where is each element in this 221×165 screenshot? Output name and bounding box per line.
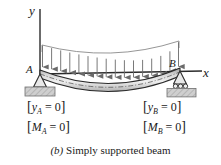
figure-caption: (b) Simply supported beam [0, 144, 221, 156]
simply-supported-beam-figure: y x A B [yA = 0] [MA = 0] [yB = 0] [MB =… [0, 0, 221, 165]
boundary-condition-ya: [yA = 0] [27, 99, 70, 119]
equals-zero: = 0 [47, 120, 66, 134]
equals-zero: = 0 [158, 100, 177, 114]
boundary-condition-yb: [yB = 0] [143, 99, 186, 119]
support-label-a: A [26, 64, 33, 75]
bracket-close: ] [181, 119, 186, 134]
beam-diagram-svg [0, 0, 221, 165]
equals-zero: = 0 [163, 120, 182, 134]
bracket-close: ] [177, 99, 182, 114]
support-label-b: B [169, 58, 176, 69]
caption-text: Simply supported beam [66, 144, 171, 156]
caption-label: (b) [50, 144, 63, 156]
boundary-conditions-right: [yB = 0] [MB = 0] [143, 99, 186, 140]
y-axis-label: y [29, 4, 35, 17]
bracket-close: ] [61, 99, 66, 114]
boundary-condition-mb: [MB = 0] [143, 119, 186, 139]
load-envelope [42, 41, 179, 53]
variable-m: M [32, 120, 42, 134]
bracket-close: ] [65, 119, 70, 134]
x-axis-label: x [203, 66, 209, 79]
variable-m: M [148, 120, 158, 134]
boundary-conditions-left: [yA = 0] [MA = 0] [27, 99, 70, 140]
boundary-condition-ma: [MA = 0] [27, 119, 70, 139]
equals-zero: = 0 [42, 100, 61, 114]
